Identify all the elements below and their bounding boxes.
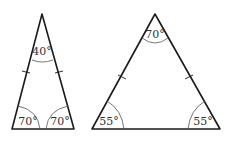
right-apex-angle-label: 70° bbox=[145, 28, 165, 41]
left-triangle-outline bbox=[12, 14, 74, 129]
right-triangle: 70° 55° 55° bbox=[92, 14, 220, 129]
left-base-right-angle-label: 70° bbox=[50, 115, 70, 128]
left-base-left-angle-label: 70° bbox=[18, 115, 38, 128]
left-apex-angle-arc bbox=[32, 60, 53, 62]
right-base-right-angle-label: 55° bbox=[193, 115, 213, 128]
right-base-left-angle-label: 55° bbox=[99, 115, 119, 128]
left-triangle: 40° 70° 70° bbox=[12, 14, 74, 129]
left-apex-angle-label: 40° bbox=[32, 45, 52, 58]
triangles-diagram: 40° 70° 70° 70° 55° 55° bbox=[0, 0, 234, 142]
